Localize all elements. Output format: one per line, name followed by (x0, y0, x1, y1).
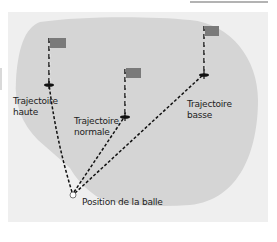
label-trajectoire-haute: Trajectoire haute (13, 96, 58, 118)
label-trajectoire-basse: Trajectoire basse (187, 99, 232, 121)
left-edge-mark (0, 68, 2, 90)
flag-haute-banner (50, 38, 66, 48)
label-trajectoire-normale-line2: normale (74, 127, 119, 138)
flag-basse-banner (205, 26, 219, 36)
flag-normale-banner (126, 68, 141, 78)
ball-position-marker (70, 192, 76, 198)
label-trajectoire-haute-line2: haute (13, 107, 58, 118)
label-trajectoire-normale: Trajectoire normale (74, 116, 119, 138)
label-trajectoire-normale-line1: Trajectoire (74, 116, 119, 127)
label-trajectoire-basse-line2: basse (187, 110, 232, 121)
label-position-balle: Position de la balle (82, 197, 163, 208)
label-trajectoire-haute-line1: Trajectoire (13, 96, 58, 107)
label-trajectoire-basse-line1: Trajectoire (187, 99, 232, 110)
